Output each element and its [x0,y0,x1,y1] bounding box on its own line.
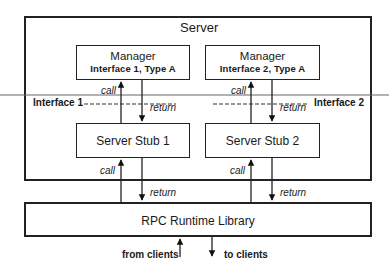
return-label-4: return [280,187,306,198]
call-label-2: call [231,85,246,96]
to-clients-label: to clients [224,249,268,260]
from-clients-label: from clients [122,249,179,260]
call-label-3: call [100,165,115,176]
return-label-3: return [150,187,176,198]
call-label-4: call [230,165,245,176]
interface-1-label: Interface 1 [33,97,83,108]
call-label-1: call [101,85,116,96]
return-label-1: return [150,102,176,113]
return-label-2: return [280,102,306,113]
interface-2-label: Interface 2 [314,97,364,108]
connector-lines [0,0,389,274]
